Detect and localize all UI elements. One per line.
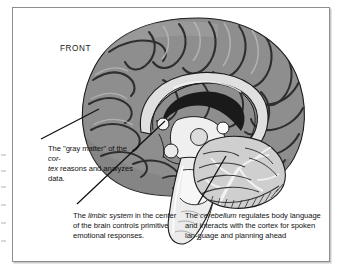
caption-limbic-emphasis: limbic system (88, 211, 133, 220)
caption-cerebellum: The cerebellum regulates body language a… (185, 211, 327, 241)
caption-cortex-lead: The "gray matter" of the (48, 144, 127, 153)
caption-cerebellum-lead: The (185, 211, 200, 220)
caption-cortex: The "gray matter" of the cor- tex reason… (48, 144, 134, 184)
caption-cortex-tail: reasons and analyzes data. (48, 164, 133, 183)
figure-frame: FRONT The "gray matter" of the cor- tex … (12, 7, 330, 262)
caption-cerebellum-emphasis: cerebellum (200, 211, 237, 220)
figure-page: FRONT The "gray matter" of the cor- tex … (0, 0, 347, 276)
caption-limbic-lead: The (73, 211, 88, 220)
front-orientation-label: FRONT (60, 44, 91, 53)
caption-limbic: The limbic system in the center of the b… (73, 211, 177, 241)
page-edge-artifacts (0, 150, 9, 255)
